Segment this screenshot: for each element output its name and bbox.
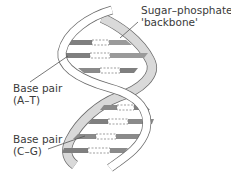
at-base-pair-label: Base pair (A–T) [13,82,62,106]
backbone-label: Sugar–phosphate 'backbone' [141,4,231,28]
cg-label-line2: (C–G) [13,145,62,157]
backbone-label-line1: Sugar–phosphate [141,4,231,16]
cg-base-pair-label: Base pair (C–G) [13,133,62,157]
cg-label-line1: Base pair [13,133,62,145]
at-label-line2: (A–T) [13,94,62,106]
at-leader-line [30,56,68,82]
at-label-line1: Base pair [13,82,62,94]
backbone-label-line2: 'backbone' [141,16,231,28]
